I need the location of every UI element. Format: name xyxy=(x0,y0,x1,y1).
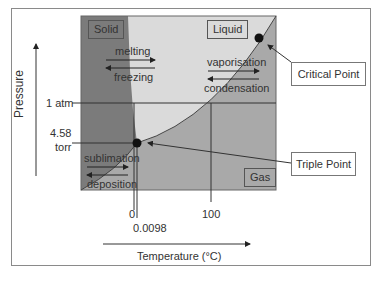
y-tick-torr: torr xyxy=(55,142,72,153)
x-tick-100: 100 xyxy=(202,209,220,220)
critical-point-marker xyxy=(255,34,264,43)
condensation-label: condensation xyxy=(204,83,269,94)
triple-point-marker xyxy=(133,139,142,148)
gas-label: Gas xyxy=(244,168,276,187)
deposition-label: deposition xyxy=(87,179,137,190)
x-tick-0: 0 xyxy=(129,209,135,220)
melting-label: melting xyxy=(115,46,150,57)
sublimation-label: sublimation xyxy=(84,153,140,164)
solid-label: Solid xyxy=(88,20,124,39)
y-tick-1atm: 1 atm xyxy=(46,98,74,109)
freezing-label: freezing xyxy=(114,72,153,83)
x-tick-00098: 0.0098 xyxy=(133,223,167,234)
triple-point-callout: Triple Point xyxy=(291,152,356,176)
y-tick-458: 4.58 xyxy=(50,128,71,139)
critical-point-callout: Critical Point xyxy=(291,62,366,86)
pressure-axis-label: Pressure xyxy=(12,70,26,118)
temperature-axis-label: Temperature (°C) xyxy=(137,251,221,262)
liquid-label: Liquid xyxy=(207,20,248,39)
vaporisation-label: vaporisation xyxy=(207,57,266,68)
